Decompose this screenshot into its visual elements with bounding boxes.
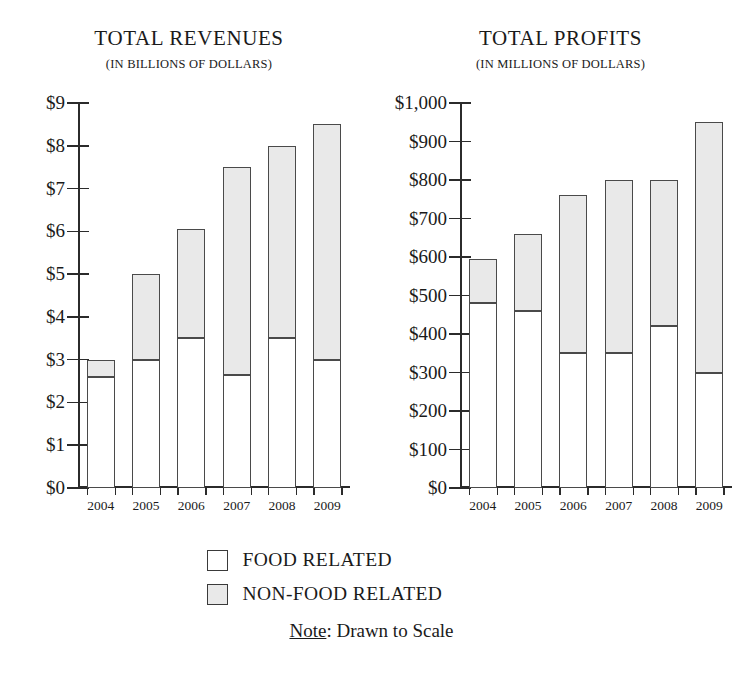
bar-segment-nonfood [223, 167, 251, 374]
x-tick-label-2006: 2006 [560, 499, 587, 513]
bar-segment-nonfood [268, 146, 296, 339]
bar-2004 [87, 360, 115, 488]
y-tick-label: $100 [409, 440, 447, 459]
x-tick-mark [650, 488, 651, 495]
bars-revenues: 200420052006200720082009 [78, 103, 350, 488]
x-tick-mark [341, 488, 342, 495]
plot-area-profits: $0$100$200$300$400$500$600$700$800$900$1… [378, 0, 743, 520]
x-tick-mark [251, 488, 252, 495]
bar-segment-nonfood [313, 124, 341, 359]
bar-2005 [132, 274, 160, 488]
x-tick-label-2009: 2009 [696, 499, 723, 513]
bar-2006 [177, 229, 205, 488]
chart-note-rest: : Drawn to Scale [326, 620, 453, 641]
y-tick-label: $300 [409, 363, 447, 382]
x-tick-mark [587, 488, 588, 495]
x-tick-label-2006: 2006 [178, 499, 205, 513]
chart-note-lead: Note [289, 620, 326, 641]
y-tick-label: $700 [409, 209, 447, 228]
bar-segment-food [313, 360, 341, 488]
x-tick-mark [678, 488, 679, 495]
legend: FOOD RELATED NON-FOOD RELATED Note: Draw… [0, 543, 743, 640]
x-tick-mark [313, 488, 314, 495]
x-tick-mark [205, 488, 206, 495]
bar-segment-food [514, 311, 542, 488]
y-tick-label: $3 [46, 350, 65, 369]
bar-2005 [514, 234, 542, 488]
bar-2009 [313, 124, 341, 488]
x-tick-mark [633, 488, 634, 495]
charts-row: TOTAL REVENUES (IN BILLIONS OF DOLLARS) … [0, 0, 743, 520]
y-tick-label: $200 [409, 401, 447, 420]
bar-segment-food [223, 375, 251, 488]
x-tick-mark [268, 488, 269, 495]
bar-2004 [469, 259, 497, 488]
bar-segment-food [268, 338, 296, 488]
bar-segment-food [177, 338, 205, 488]
y-tick-label: $2 [46, 393, 65, 412]
x-tick-label-2005: 2005 [515, 499, 542, 513]
y-tick-label: $0 [428, 478, 447, 497]
x-tick-label-2009: 2009 [314, 499, 341, 513]
legend-label-nonfood: NON-FOOD RELATED [243, 584, 443, 604]
legend-swatch-food-icon [207, 550, 228, 571]
y-tick-label: $500 [409, 286, 447, 305]
bar-segment-food [605, 353, 633, 488]
bar-segment-nonfood [605, 180, 633, 353]
y-tick-label: $5 [46, 264, 65, 283]
legend-item-food: FOOD RELATED [0, 543, 743, 577]
axes-revenues: $0$1$2$3$4$5$6$7$8$9 2004200520062007200… [78, 103, 350, 488]
y-tick-label: $1 [46, 435, 65, 454]
bar-2007 [605, 180, 633, 488]
y-tick-label: $6 [46, 221, 65, 240]
y-tick-label: $0 [46, 478, 65, 497]
axes-profits: $0$100$200$300$400$500$600$700$800$900$1… [460, 103, 732, 488]
y-tick-label: $600 [409, 247, 447, 266]
bar-segment-nonfood [695, 122, 723, 372]
x-tick-label-2008: 2008 [269, 499, 296, 513]
y-tick-label: $7 [46, 179, 65, 198]
bar-2009 [695, 122, 723, 488]
x-tick-mark [542, 488, 543, 495]
bar-segment-nonfood [514, 234, 542, 311]
bar-segment-food [559, 353, 587, 488]
y-tick-label: $1,000 [395, 93, 447, 112]
x-tick-label-2008: 2008 [651, 499, 678, 513]
x-tick-mark [695, 488, 696, 495]
bar-2008 [268, 146, 296, 488]
x-tick-mark [177, 488, 178, 495]
x-tick-mark [497, 488, 498, 495]
x-tick-label-2005: 2005 [133, 499, 160, 513]
legend-label-food: FOOD RELATED [243, 550, 392, 570]
x-tick-mark [559, 488, 560, 495]
bar-segment-food [469, 303, 497, 488]
x-tick-label-2004: 2004 [87, 499, 114, 513]
x-tick-mark [223, 488, 224, 495]
chart-note: Note: Drawn to Scale [0, 621, 743, 640]
bar-segment-nonfood [87, 360, 115, 377]
x-tick-label-2007: 2007 [605, 499, 632, 513]
bar-segment-food [650, 326, 678, 488]
bar-2006 [559, 195, 587, 488]
y-tick-label: $900 [409, 132, 447, 151]
x-tick-mark [115, 488, 116, 495]
bar-segment-food [132, 360, 160, 488]
y-tick-label: $800 [409, 170, 447, 189]
y-tick-label: $9 [46, 93, 65, 112]
chart-page: TOTAL REVENUES (IN BILLIONS OF DOLLARS) … [0, 0, 743, 679]
x-tick-mark [605, 488, 606, 495]
bar-segment-nonfood [469, 259, 497, 303]
bar-segment-nonfood [177, 229, 205, 338]
x-tick-mark [160, 488, 161, 495]
x-tick-label-2004: 2004 [469, 499, 496, 513]
bar-segment-food [695, 373, 723, 489]
legend-swatch-nonfood-icon [207, 584, 228, 605]
bar-segment-nonfood [650, 180, 678, 326]
bar-segment-nonfood [559, 195, 587, 353]
x-tick-mark [723, 488, 724, 495]
x-tick-mark [87, 488, 88, 495]
x-tick-mark [296, 488, 297, 495]
bar-2008 [650, 180, 678, 488]
bar-2007 [223, 167, 251, 488]
x-tick-mark [514, 488, 515, 495]
